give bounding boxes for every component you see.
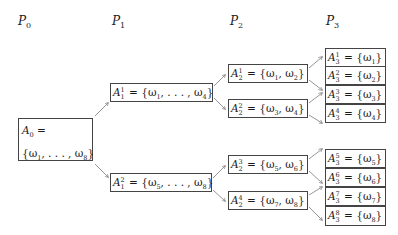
node-a0: A0 = {ω1, . . . , ω8} — [18, 118, 93, 161]
node-a3-2: A23 = {ω2} — [325, 66, 386, 85]
node-a0-line2: {ω1, . . . , ω8} — [22, 144, 89, 167]
node-a2-4: A42 = {ω7, ω8} — [228, 191, 308, 210]
node-a2-2: A22 = {ω3, ω4} — [228, 99, 308, 118]
node-a3-1: A13 = {ω1} — [325, 48, 386, 67]
node-a1-1: A11 = {ω1, . . . , ω4} — [110, 83, 213, 102]
node-a2-3: A32 = {ω5, ω6} — [228, 155, 308, 174]
node-a2-1: A12 = {ω1, ω2} — [228, 64, 308, 83]
node-a3-4: A43 = {ω4} — [325, 104, 386, 123]
node-a3-6: A63 = {ω6} — [325, 168, 386, 187]
node-a3-7: A73 = {ω7} — [325, 187, 386, 206]
node-a3-5: A53 = {ω5} — [325, 149, 386, 168]
node-a1-2: A21 = {ω5, . . . , ω8} — [110, 173, 212, 192]
node-a0-line1: A0 = — [22, 121, 89, 144]
node-a3-3: A33 = {ω3} — [325, 85, 386, 104]
node-a3-8: A83 = {ω8} — [325, 206, 386, 226]
